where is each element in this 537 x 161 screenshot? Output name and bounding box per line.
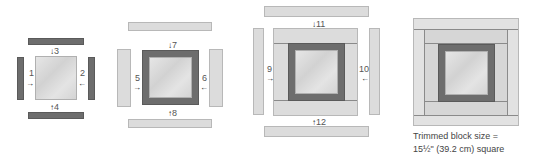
arrow-left-icon: ← [200,83,208,93]
label-8: ↑8 [168,108,177,119]
label-9: 9 [267,64,272,74]
label-6: 6 [202,73,207,83]
strip-1-left [17,57,24,100]
dark-frame [438,44,495,102]
caption-line-1: Trimmed block size = [413,130,498,142]
strip-7-top [128,22,212,31]
arrow-right-icon: → [133,83,141,93]
strip-6-right [209,49,223,107]
center-square [35,56,77,100]
strip-10-right [369,28,380,115]
block-light-frame [273,28,358,116]
label-5: 5 [135,73,140,83]
strip-2-right [88,57,95,100]
center-square [445,51,488,95]
strip-11-top [264,6,369,17]
arrow-left-icon: ← [361,74,369,84]
label-10: 10 [359,64,369,74]
center-square [149,57,192,98]
light-frame [425,30,507,115]
block-dark-frame [142,50,199,105]
seam-outer-right [507,29,508,115]
strip-12-bottom [264,126,369,137]
strip-5-left [117,49,131,107]
dark-frame [288,43,345,101]
arrow-left-icon: ← [78,79,86,89]
strip-4-bottom [28,112,84,119]
strip-8-bottom [128,119,212,128]
label-2: 2 [80,68,85,78]
strip-3-top [28,38,84,45]
finished-block [413,18,519,126]
seam-outer-bottom [414,115,518,116]
arrow-right-icon: → [26,79,34,89]
arrow-right-icon: → [266,74,274,84]
center-square [295,50,338,94]
label-1: 1 [29,68,34,78]
strip-9-left [253,28,264,115]
caption-line-2: 15½" (39.2 cm) square [413,143,504,155]
